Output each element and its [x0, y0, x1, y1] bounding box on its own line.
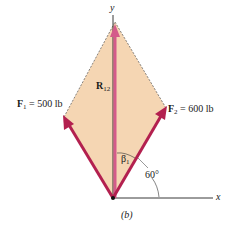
f1-subscript: 1	[23, 103, 27, 111]
sixty-degree-label: 60°	[145, 170, 159, 180]
figure-caption: (b)	[121, 210, 133, 220]
diagram-graphics	[0, 0, 239, 234]
beta-label: β1	[121, 154, 130, 166]
force-parallelogram-diagram: y x R12 F1 = 500 lb F2 = 600 lb β1 60° (…	[0, 0, 239, 234]
x-axis-label: x	[216, 192, 220, 202]
y-axis-label: y	[110, 3, 114, 13]
f2-label: F2 = 600 lb	[168, 104, 214, 116]
sixty-leader-line	[138, 158, 148, 168]
resultant-label: R12	[96, 81, 110, 93]
sixty-degree-arc	[152, 178, 159, 197]
beta-subscript: 1	[126, 158, 130, 166]
origin-point	[111, 196, 115, 200]
f2-subscript: 2	[174, 108, 178, 116]
f1-value: = 500 lb	[29, 98, 62, 109]
f2-value: = 600 lb	[180, 103, 213, 114]
f1-label: F1 = 500 lb	[17, 99, 63, 111]
resultant-subscript: 12	[103, 85, 110, 93]
